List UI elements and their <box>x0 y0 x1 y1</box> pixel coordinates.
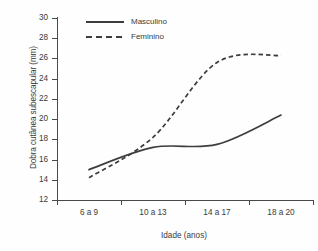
x-tick-label: 14 a 17 <box>187 208 247 217</box>
y-tick-label: 12 <box>24 195 48 204</box>
y-tick-label: 28 <box>24 33 48 42</box>
y-tick-label: 24 <box>24 74 48 83</box>
legend-item-feminino: Feminino <box>86 29 167 44</box>
chart-container: Dobra cutânea subescapular (mm) 12141618… <box>0 0 318 251</box>
x-tick-label: 10 a 13 <box>123 208 183 217</box>
y-tick-label: 14 <box>24 175 48 184</box>
legend-label-masculino: Masculino <box>131 17 167 26</box>
y-tick-label: 22 <box>24 94 48 103</box>
series-plot-area <box>57 18 313 201</box>
x-axis-title: Idade (anos) <box>55 231 313 240</box>
y-tick-label: 16 <box>24 155 48 164</box>
y-tick-label: 20 <box>24 114 48 123</box>
legend-line-dashed-icon <box>86 32 124 42</box>
legend-item-masculino: Masculino <box>86 14 167 29</box>
chart-legend: Masculino Feminino <box>86 14 167 44</box>
y-tick-label: 30 <box>24 13 48 22</box>
legend-label-feminino: Feminino <box>131 32 164 41</box>
y-tick-label: 18 <box>24 134 48 143</box>
x-tick-mark <box>313 200 314 205</box>
y-tick-label: 26 <box>24 53 48 62</box>
x-tick-label: 18 a 20 <box>251 208 311 217</box>
x-tick-label: 6 a 9 <box>59 208 119 217</box>
legend-line-solid-icon <box>86 17 124 27</box>
